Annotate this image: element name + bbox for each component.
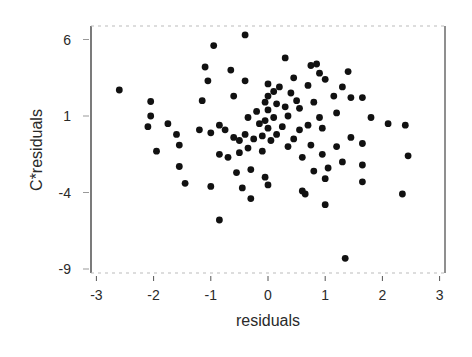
data-point [359, 162, 366, 169]
data-point [165, 120, 172, 127]
data-point [276, 84, 283, 91]
data-point [265, 81, 272, 88]
data-point [348, 94, 355, 101]
data-point [322, 76, 329, 83]
y-tick-label: -9 [59, 261, 72, 277]
data-point [342, 255, 349, 262]
data-point [290, 74, 297, 81]
data-point [262, 174, 269, 181]
data-point [116, 87, 123, 94]
data-point [316, 70, 323, 77]
data-point [330, 93, 337, 100]
data-point [359, 178, 366, 185]
data-point [290, 136, 297, 143]
data-point [247, 195, 254, 202]
data-point [145, 123, 152, 130]
data-point [236, 149, 243, 156]
data-point [222, 126, 229, 133]
data-point [205, 77, 212, 84]
plot-frame [91, 26, 445, 273]
data-point [153, 148, 160, 155]
data-point [285, 143, 292, 150]
data-point [279, 123, 286, 130]
data-point [339, 84, 346, 91]
data-point [236, 137, 243, 144]
data-point [245, 114, 252, 121]
data-point [302, 191, 309, 198]
data-point [227, 67, 234, 74]
data-point [259, 148, 266, 155]
data-point [296, 105, 303, 112]
data-point [199, 97, 206, 104]
data-point [310, 168, 317, 175]
data-point [359, 94, 366, 101]
data-point [319, 151, 326, 158]
x-tick-label: 2 [379, 287, 387, 303]
y-tick-label: -4 [59, 185, 72, 201]
x-tick-label: 0 [264, 287, 272, 303]
data-point [147, 98, 154, 105]
data-point [176, 142, 183, 149]
data-point [333, 110, 340, 117]
data-point [308, 62, 315, 69]
y-tick-label: 1 [63, 108, 71, 124]
data-point [345, 68, 352, 75]
x-tick-label: -3 [90, 287, 103, 303]
data-point [293, 97, 300, 104]
data-point [265, 125, 272, 132]
data-point [242, 131, 249, 138]
data-point [368, 114, 375, 121]
data-point [230, 93, 237, 100]
data-point [262, 117, 269, 124]
data-point [322, 175, 329, 182]
data-point [265, 93, 272, 100]
data-point [310, 99, 317, 106]
data-point [245, 145, 252, 152]
x-tick-label: -1 [205, 287, 218, 303]
y-axis-title: C*residuals [28, 109, 45, 191]
data-point [359, 140, 366, 147]
data-point [250, 136, 257, 143]
data-point [253, 108, 260, 115]
x-axis-title: residuals [236, 312, 300, 329]
x-tick-label: 3 [436, 287, 444, 303]
data-point [385, 120, 392, 127]
y-axis-ticks: 61-4-9 [59, 32, 89, 278]
data-point [273, 100, 280, 107]
data-point [147, 113, 154, 120]
data-point [207, 129, 214, 136]
data-point [242, 77, 249, 84]
data-point [348, 134, 355, 141]
data-point [322, 201, 329, 208]
data-point [282, 55, 289, 62]
data-point [207, 183, 214, 190]
data-point [210, 42, 217, 49]
x-tick-label: 1 [321, 287, 329, 303]
data-point [305, 82, 312, 89]
scatter-chart: -3-2-10123 61-4-9 residuals C*residuals [0, 0, 472, 357]
data-point [259, 133, 266, 140]
data-point [285, 113, 292, 120]
data-point [313, 61, 320, 68]
y-tick-label: 6 [63, 32, 71, 48]
data-point [296, 126, 303, 133]
data-point [196, 126, 203, 133]
data-point [270, 88, 277, 95]
data-point [299, 154, 306, 161]
data-points [116, 32, 412, 262]
data-point [316, 114, 323, 121]
data-point [247, 166, 254, 173]
x-axis-ticks: -3-2-10123 [90, 276, 444, 303]
data-point [333, 143, 340, 150]
data-point [216, 151, 223, 158]
data-point [262, 99, 269, 106]
data-point [325, 165, 332, 172]
data-point [282, 103, 289, 110]
data-point [225, 154, 232, 161]
data-point [202, 64, 209, 71]
data-point [233, 169, 240, 176]
data-point [216, 122, 223, 129]
data-point [216, 217, 223, 224]
data-point [402, 122, 409, 129]
data-point [273, 131, 280, 138]
